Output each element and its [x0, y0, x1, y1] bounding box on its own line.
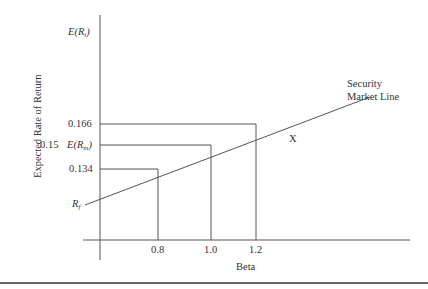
security-market-line	[85, 97, 370, 205]
label-main: E(R	[68, 26, 84, 37]
label-sub: f	[78, 203, 80, 211]
erm-label: E(Rm)	[67, 139, 92, 154]
y-axis-top-label: E(Ri)	[68, 26, 90, 41]
y-axis-label: Expected Rate of Return	[32, 74, 43, 178]
x-tick-10: 1.0	[204, 244, 217, 256]
label-close: )	[86, 26, 90, 37]
label-close: )	[88, 139, 92, 150]
rf-label: Rf	[72, 198, 80, 213]
sml-label-line1: Security	[347, 78, 382, 90]
label-main: E(R	[67, 139, 83, 150]
y-tick-0134: 0.134	[69, 163, 93, 175]
sml-label-line2: Market Line	[347, 91, 399, 103]
x-tick-12: 1.2	[249, 244, 262, 256]
x-axis-label: Beta	[236, 261, 255, 273]
y-tick-0166: 0.166	[68, 118, 92, 130]
point-x-label: X	[289, 133, 297, 145]
x-tick-08: 0.8	[151, 244, 164, 256]
